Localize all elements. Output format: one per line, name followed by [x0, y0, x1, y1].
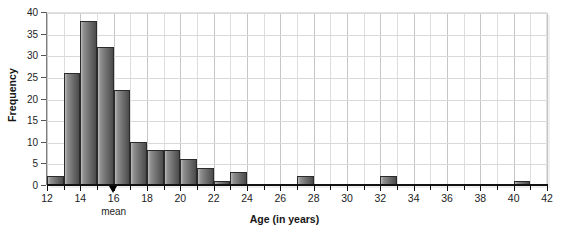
histogram-bar: [197, 168, 214, 185]
y-tick-label: 40: [18, 7, 38, 18]
gridline-vertical-minor: [430, 13, 431, 185]
x-tick-label: 20: [169, 192, 191, 204]
y-tick: [41, 55, 46, 56]
x-tick-major: [380, 186, 381, 191]
gridline-vertical-major: [380, 13, 381, 185]
gridline-horizontal: [47, 13, 546, 14]
y-tick-label: 30: [18, 50, 38, 61]
gridline-vertical-major: [280, 13, 281, 185]
plot-area: [47, 12, 547, 185]
x-tick-major: [514, 186, 515, 191]
x-tick-minor: [64, 186, 65, 190]
histogram-bar: [164, 150, 181, 185]
gridline-vertical-minor: [297, 13, 298, 185]
x-tick-major: [47, 186, 48, 191]
x-tick-label: 34: [403, 192, 425, 204]
y-tick-label: 25: [18, 71, 38, 82]
histogram-bar: [64, 73, 81, 185]
y-tick: [41, 12, 46, 13]
x-tick-major: [314, 186, 315, 191]
x-tick-label: 14: [69, 192, 91, 204]
y-tick-label: 35: [18, 28, 38, 39]
y-axis-line: [46, 12, 47, 185]
x-tick-minor: [264, 186, 265, 190]
x-tick-label: 24: [236, 192, 258, 204]
x-tick-minor: [497, 186, 498, 190]
gridline-vertical-major: [447, 13, 448, 185]
x-tick-minor: [164, 186, 165, 190]
gridline-vertical-minor: [264, 13, 265, 185]
y-tick: [41, 77, 46, 78]
x-tick-major: [347, 186, 348, 191]
x-tick-major: [180, 186, 181, 191]
gridline-vertical-minor: [364, 13, 365, 185]
gridline-vertical-minor: [464, 13, 465, 185]
gridline-vertical-minor: [397, 13, 398, 185]
x-tick-major: [147, 186, 148, 191]
y-tick: [41, 142, 46, 143]
x-tick-label: 16: [103, 192, 125, 204]
x-tick-minor: [430, 186, 431, 190]
gridline-horizontal: [47, 78, 546, 79]
gridline-vertical-major: [347, 13, 348, 185]
x-tick-major: [80, 186, 81, 191]
x-tick-label: 28: [303, 192, 325, 204]
gridline-vertical-major: [414, 13, 415, 185]
gridline-horizontal: [47, 56, 546, 57]
gridline-vertical-minor: [330, 13, 331, 185]
gridline-vertical-major: [480, 13, 481, 185]
x-tick-label: 26: [269, 192, 291, 204]
x-tick-minor: [364, 186, 365, 190]
x-tick-major: [447, 186, 448, 191]
histogram-bar: [180, 159, 197, 185]
x-tick-minor: [297, 186, 298, 190]
gridline-vertical-minor: [230, 13, 231, 185]
x-tick-minor: [197, 186, 198, 190]
y-tick: [41, 34, 46, 35]
y-axis-title-text: Frequency: [6, 68, 18, 122]
x-tick-label: 40: [503, 192, 525, 204]
gridline-vertical-major: [214, 13, 215, 185]
gridline-vertical-major: [314, 13, 315, 185]
x-tick-minor: [397, 186, 398, 190]
x-tick-major: [547, 186, 548, 191]
y-tick: [41, 185, 46, 186]
x-tick-major: [414, 186, 415, 191]
y-tick: [41, 99, 46, 100]
histogram-figure: Frequency 121416182022242628303234363840…: [0, 0, 569, 234]
gridline-vertical-major: [514, 13, 515, 185]
gridline-vertical-major: [47, 13, 48, 185]
x-tick-minor: [230, 186, 231, 190]
mean-marker-icon: [109, 186, 117, 193]
gridline-vertical-major: [247, 13, 248, 185]
x-tick-minor: [330, 186, 331, 190]
x-tick-minor: [130, 186, 131, 190]
x-tick-minor: [97, 186, 98, 190]
y-tick-label: 0: [18, 180, 38, 191]
gridline-vertical-minor: [497, 13, 498, 185]
x-tick-major: [247, 186, 248, 191]
histogram-bar: [130, 142, 147, 185]
gridline-horizontal: [47, 35, 546, 36]
gridline-vertical-minor: [530, 13, 531, 185]
x-tick-label: 12: [36, 192, 58, 204]
y-tick: [41, 120, 46, 121]
x-tick-major: [280, 186, 281, 191]
histogram-bar: [97, 47, 114, 185]
y-tick: [41, 163, 46, 164]
y-tick-label: 10: [18, 136, 38, 147]
histogram-bar: [80, 21, 97, 185]
x-tick-minor: [464, 186, 465, 190]
y-tick-label: 20: [18, 93, 38, 104]
histogram-bar: [147, 150, 164, 185]
x-tick-major: [214, 186, 215, 191]
x-tick-label: 22: [203, 192, 225, 204]
gridline-vertical-minor: [197, 13, 198, 185]
x-tick-label: 38: [469, 192, 491, 204]
x-tick-label: 18: [136, 192, 158, 204]
x-axis-title: Age (in years): [0, 213, 569, 225]
x-tick-label: 30: [336, 192, 358, 204]
x-tick-label: 42: [536, 192, 558, 204]
x-tick-label: 36: [436, 192, 458, 204]
x-tick-major: [480, 186, 481, 191]
